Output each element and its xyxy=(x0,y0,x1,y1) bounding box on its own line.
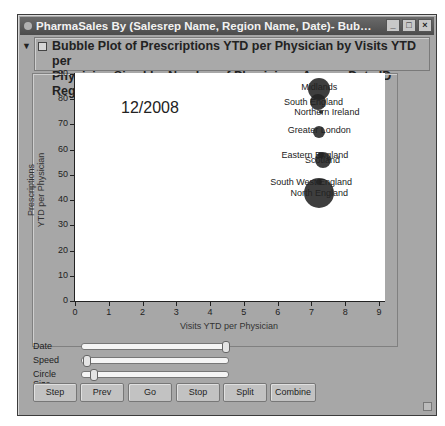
x-tick-label: 4 xyxy=(204,307,216,317)
report-title-box: Bubble Plot of Prescriptions YTD per Phy… xyxy=(34,37,430,71)
y-axis-label: PrescriptionsYTD per Physician xyxy=(26,130,46,250)
y-tick-mark xyxy=(70,301,74,302)
y-tick-mark xyxy=(70,251,74,252)
resize-grip-icon[interactable] xyxy=(423,402,432,411)
x-tick-mark xyxy=(75,302,76,306)
x-tick-label: 9 xyxy=(373,307,385,317)
y-tick-mark xyxy=(70,225,74,226)
window-title: PharmaSales By (Salesrep Name, Region Na… xyxy=(36,17,378,35)
x-axis-label: Visits YTD per Physician xyxy=(74,321,384,331)
y-tick-label: 60 xyxy=(48,144,68,154)
date-slider-label: Date xyxy=(33,341,52,351)
x-tick-mark xyxy=(278,302,279,306)
y-tick-mark xyxy=(70,150,74,151)
y-tick-label: 30 xyxy=(48,219,68,229)
y-tick-label: 20 xyxy=(48,245,68,255)
y-tick-label: 0 xyxy=(48,295,68,305)
report-title-line1: Bubble Plot of Prescriptions YTD per Phy… xyxy=(52,39,429,69)
speed-slider-label: Speed xyxy=(33,355,59,365)
disclosure-triangle-icon[interactable]: ▼ xyxy=(22,41,31,51)
title-bar[interactable]: PharmaSales By (Salesrep Name, Region Na… xyxy=(20,17,434,35)
red-triangle-menu-icon[interactable] xyxy=(38,42,47,51)
x-tick-mark xyxy=(345,302,346,306)
x-tick-mark xyxy=(244,302,245,306)
speed-slider[interactable] xyxy=(81,357,229,364)
bubble-label: South England xyxy=(284,97,343,107)
x-tick-label: 3 xyxy=(170,307,182,317)
y-tick-label: 90 xyxy=(48,68,68,78)
y-tick-mark xyxy=(70,175,74,176)
x-tick-label: 8 xyxy=(339,307,351,317)
date-slider[interactable] xyxy=(81,343,229,350)
report-header: ▼ Bubble Plot of Prescriptions YTD per P… xyxy=(20,37,434,71)
x-tick-label: 7 xyxy=(305,307,317,317)
x-tick-label: 1 xyxy=(103,307,115,317)
x-tick-label: 5 xyxy=(238,307,250,317)
bubble-label: Scotland xyxy=(305,155,340,165)
bubble-label: Midlands xyxy=(301,82,337,92)
y-tick-mark xyxy=(70,124,74,125)
prev-button[interactable]: Prev xyxy=(80,383,124,402)
date-slider-thumb[interactable] xyxy=(222,341,230,353)
speed-slider-thumb[interactable] xyxy=(83,355,91,367)
y-tick-label: 10 xyxy=(48,270,68,280)
step-button[interactable]: Step xyxy=(33,383,77,402)
maximize-button[interactable]: □ xyxy=(402,19,416,32)
bubble-label: Greater London xyxy=(288,125,351,135)
y-tick-label: 40 xyxy=(48,194,68,204)
split-button[interactable]: Split xyxy=(223,383,267,402)
x-tick-mark xyxy=(109,302,110,306)
x-tick-mark xyxy=(176,302,177,306)
y-tick-mark xyxy=(70,276,74,277)
y-tick-mark xyxy=(70,200,74,201)
app-window: PharmaSales By (Salesrep Name, Region Na… xyxy=(17,14,437,416)
y-tick-label: 50 xyxy=(48,169,68,179)
bubble-label: North England xyxy=(290,188,348,198)
minimize-button[interactable]: _ xyxy=(386,19,400,32)
x-tick-label: 2 xyxy=(137,307,149,317)
x-tick-mark xyxy=(311,302,312,306)
y-tick-label: 70 xyxy=(48,118,68,128)
close-button[interactable]: × xyxy=(418,19,432,32)
animation-date-label: 12/2008 xyxy=(121,99,179,117)
plot-area[interactable]: 12/2008MidlandsSouth EnglandNorthern Ire… xyxy=(74,73,385,302)
x-tick-mark xyxy=(143,302,144,306)
x-tick-label: 6 xyxy=(272,307,284,317)
bubble-label: Northern Ireland xyxy=(294,107,359,117)
y-tick-label: 80 xyxy=(48,93,68,103)
x-tick-mark xyxy=(379,302,380,306)
stop-button[interactable]: Stop xyxy=(176,383,220,402)
combine-button[interactable]: Combine xyxy=(270,383,316,402)
bubble-label: South West England xyxy=(270,177,352,187)
y-tick-mark xyxy=(70,99,74,100)
app-icon xyxy=(24,22,32,30)
circle-size-slider[interactable] xyxy=(81,371,229,378)
go-button[interactable]: Go xyxy=(128,383,172,402)
x-tick-mark xyxy=(210,302,211,306)
circle-size-slider-thumb[interactable] xyxy=(90,369,98,381)
y-tick-mark xyxy=(70,74,74,75)
x-tick-label: 0 xyxy=(69,307,81,317)
